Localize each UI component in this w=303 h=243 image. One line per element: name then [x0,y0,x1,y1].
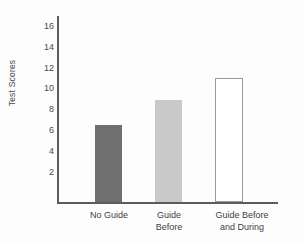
bar-guide-before[interactable] [155,100,182,202]
bar-no-guide[interactable] [95,125,122,202]
x-axis-tick-labels: No Guide Guide Before Guide Before and D… [0,206,303,243]
x-label-guide-before: Guide Before [139,210,199,233]
x-label-no-guide: No Guide [78,210,140,222]
bar-chart: Test Scores 16 14 12 10 8 6 4 2 No Guide… [0,0,303,243]
bar-guide-before-and-during[interactable] [215,78,243,202]
x-label-guide-before-and-during: Guide Before and During [198,210,286,233]
